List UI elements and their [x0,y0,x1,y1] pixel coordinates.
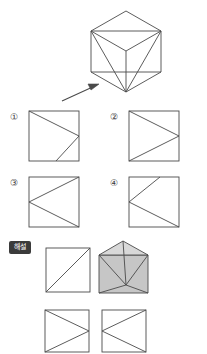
explanation-diagonal-line [46,248,90,292]
option-4-line-a [129,177,160,202]
explanation-square-a-line-b [45,331,89,352]
worksheet-page: ① ② ③ ④ 해설 [0,0,207,354]
option-1-line-b [56,136,79,161]
option-2-line-b [129,136,179,161]
option-4-line-b [129,202,179,227]
explanation-square-b [102,310,146,352]
option-4-figure[interactable] [129,177,179,227]
cube-cut-line-left [91,31,126,92]
option-1-square [29,111,79,161]
explanation-square-diagonal-figure [46,248,90,292]
cube-cut-line-right [126,31,161,92]
explanation-shaded-solid-figure [99,241,148,293]
option-3-figure[interactable] [29,177,79,227]
explanation-square-b-line-b [102,331,146,352]
figures-layer [0,0,207,354]
option-4-square [129,177,179,227]
solid-body-face [99,255,148,293]
view-direction-arrow [62,84,99,101]
option-3-line-b [29,202,79,227]
explanation-badge: 해설 [9,241,31,254]
arrow-head [88,84,99,90]
option-1-number[interactable]: ① [10,112,18,123]
explanation-square-b-line-a [102,310,146,331]
option-1-figure[interactable] [29,111,79,161]
option-4-number[interactable]: ④ [110,178,118,189]
explanation-square-b-figure [102,310,146,352]
option-3-number[interactable]: ③ [10,178,18,189]
prompt-cube-figure [91,11,161,92]
option-3-line-a [29,177,79,202]
option-2-number[interactable]: ② [110,112,118,123]
option-2-square [129,111,179,161]
option-2-line-a [129,111,179,136]
option-1-line-a [29,111,79,136]
explanation-square-a-figure [45,310,89,352]
explanation-square-a-line-a [45,310,89,331]
option-2-figure[interactable] [129,111,179,161]
explanation-square-a [45,310,89,352]
option-3-square [29,177,79,227]
